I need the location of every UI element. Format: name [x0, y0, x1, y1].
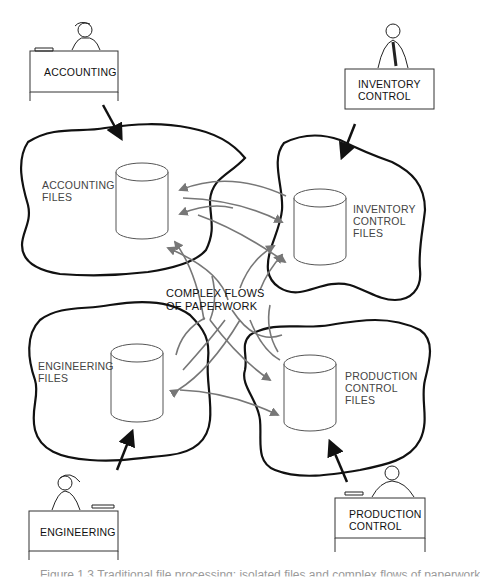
- complex-flows-label: COMPLEX FLOWS OF PAPERWORK: [166, 287, 265, 313]
- production-files-label: PRODUCTION CONTROL FILES: [345, 370, 418, 406]
- worker-figure-icon: [52, 475, 114, 510]
- production-desk-label: PRODUCTION CONTROL: [349, 508, 422, 532]
- inventory-desk-label: INVENTORY CONTROL: [358, 78, 421, 102]
- engineering-desk-label: ENGINEERING: [40, 526, 116, 538]
- accounting-input-arrow: [103, 105, 121, 138]
- engineering-input-arrow: [117, 432, 132, 470]
- accounting-files-cylinder: [116, 163, 168, 239]
- worker-figure-icon: [35, 22, 100, 51]
- engineering-files-label: ENGINEERING FILES: [38, 360, 114, 384]
- inventory-files-label: INVENTORY CONTROL FILES: [353, 203, 416, 239]
- inventory-files-cylinder: [294, 189, 346, 265]
- accounting-desk: [30, 22, 118, 101]
- inventory-input-arrow: [342, 124, 355, 157]
- production-input-arrow: [330, 442, 347, 482]
- production-files-cylinder: [284, 355, 336, 431]
- accounting-desk-label: ACCOUNTING: [44, 66, 117, 78]
- engineering-files-cylinder: [111, 344, 163, 422]
- engineering-desk: [29, 475, 118, 560]
- worker-figure-icon: [378, 24, 408, 68]
- accounting-files-label: ACCOUNTING FILES: [42, 179, 115, 203]
- figure-caption: Figure 1.3 Traditional file processing: …: [40, 568, 480, 577]
